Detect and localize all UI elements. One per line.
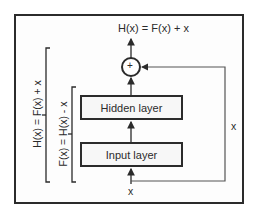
hidden-layer-box: Hidden layer [80, 95, 183, 120]
inner-bracket [72, 87, 76, 182]
hidden-layer-label: Hidden layer [101, 102, 163, 114]
output-equation: H(x) = F(x) + x [118, 22, 189, 34]
outer-bracket [46, 48, 50, 182]
skip-x-label: x [231, 120, 236, 132]
outer-bracket-equation: H(x) = F(x) + x [31, 69, 43, 159]
input-layer-label: Input layer [106, 149, 157, 161]
inner-bracket-equation: F(x) = H(x) - x [57, 89, 69, 179]
residual-block-diagram: + H(x) = F(x) + x Hidden layer Input lay… [0, 0, 256, 215]
input-layer-box: Input layer [80, 142, 183, 167]
input-x-label: x [128, 185, 133, 197]
adder-plus-symbol: + [127, 60, 133, 71]
